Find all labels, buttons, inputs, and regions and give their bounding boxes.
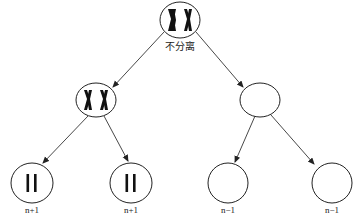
nondisjunction-label: 不分离 <box>165 38 195 53</box>
arrow-left-g1 <box>43 116 88 163</box>
arrow-parent-right <box>196 32 243 87</box>
daughter-right-cell <box>240 83 280 117</box>
gamete-2-label: n+1 <box>124 205 138 215</box>
chromatid-icon <box>126 174 129 192</box>
gamete-3 <box>208 163 248 203</box>
chromatid-icon <box>133 174 136 192</box>
parent-cell <box>160 2 200 38</box>
gamete-4-label: n−1 <box>325 205 339 215</box>
arrow-parent-left <box>113 32 164 87</box>
chromatid-icon <box>34 174 37 192</box>
gamete-1 <box>11 163 53 203</box>
arrow-left-g2 <box>104 116 128 161</box>
arrow-right-g4 <box>271 115 314 164</box>
gamete-4 <box>312 163 352 203</box>
division-diagram <box>0 0 361 221</box>
arrow-right-g3 <box>235 116 255 162</box>
daughter-left-cell <box>76 83 116 117</box>
gamete-3-label: n−1 <box>221 205 235 215</box>
chromatid-icon <box>27 174 30 192</box>
gamete-1-label: n+1 <box>25 205 39 215</box>
gamete-2 <box>110 163 152 203</box>
